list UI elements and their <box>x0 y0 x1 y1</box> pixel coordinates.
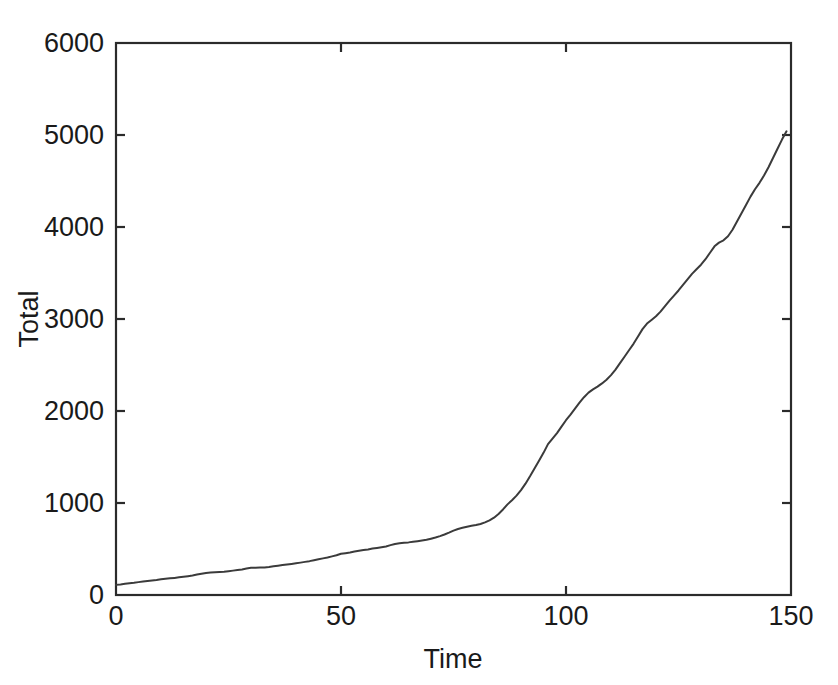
y-tick-label: 1000 <box>44 488 104 518</box>
chart-figure: 050100150 0100020003000400050006000 Time… <box>0 0 838 685</box>
x-tick-label: 100 <box>543 601 588 631</box>
y-tick-label: 3000 <box>44 304 104 334</box>
y-tick-label: 0 <box>89 580 104 610</box>
y-tick-label: 5000 <box>44 120 104 150</box>
x-axis-title: Time <box>424 644 483 674</box>
line-chart: 050100150 0100020003000400050006000 Time… <box>0 0 838 685</box>
y-tick-label: 2000 <box>44 396 104 426</box>
x-tick-label: 150 <box>768 601 813 631</box>
figure-background <box>0 0 838 685</box>
x-tick-label: 50 <box>326 601 356 631</box>
y-axis-title: Total <box>14 290 44 347</box>
y-tick-label: 6000 <box>44 28 104 58</box>
x-tick-label: 0 <box>108 601 123 631</box>
y-tick-label: 4000 <box>44 212 104 242</box>
